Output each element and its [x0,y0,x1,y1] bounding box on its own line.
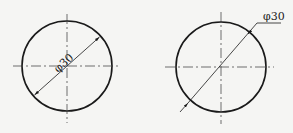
right-diameter-label: φ30 [263,10,285,23]
left-diameter-label: φ30 [51,51,76,75]
right-circle-figure: φ30 [165,10,285,124]
diagram-canvas: φ30 φ30 [0,0,293,133]
right-lower-arrow [180,103,188,112]
right-diameter-leader [188,23,257,103]
left-circle-figure: φ30 [13,14,121,123]
diameter-dimension-diagram: φ30 φ30 [0,0,293,133]
